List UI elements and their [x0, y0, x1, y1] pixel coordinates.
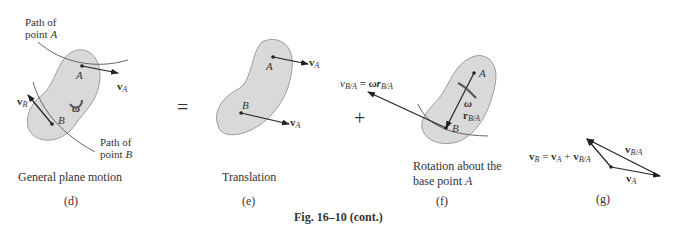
omega-label: ω — [72, 102, 80, 114]
point-b-label-f: B — [452, 122, 459, 134]
point-a-label-e: A — [266, 60, 273, 72]
r-ba-label: rB/A — [463, 109, 480, 125]
v-ba-label-g: vB/A — [625, 143, 643, 159]
plus-operator: + — [354, 107, 365, 130]
point-a-label-f: A — [479, 67, 486, 79]
vector-vba-g — [587, 139, 660, 176]
point-b-label: B — [58, 114, 65, 126]
panel-f-title: Rotation about the base point A — [413, 159, 502, 189]
figure-caption: Fig. 16–10 (cont.) — [294, 210, 383, 225]
panel-d-label: (d) — [64, 194, 78, 209]
rigid-body-e — [217, 39, 293, 134]
path-b-label: Path of point B — [100, 136, 132, 160]
point-a-dot-e — [271, 55, 275, 59]
point-b-dot-e — [239, 111, 243, 115]
velocity-a-label-e: vA — [309, 56, 319, 72]
panel-f-drawing — [368, 56, 496, 144]
point-b-dot-f — [444, 126, 448, 130]
omega-label-f: ω — [464, 97, 472, 109]
point-a-label: A — [76, 69, 83, 81]
path-a-label: Path of point A — [25, 16, 57, 40]
panel-d-title: General plane motion — [18, 170, 122, 185]
diagram-canvas — [0, 0, 683, 231]
panel-g-drawing — [587, 139, 660, 176]
panel-e-title: Translation — [222, 170, 276, 185]
point-a-dot — [80, 64, 84, 68]
panel-g-label: (g) — [596, 192, 610, 207]
velocity-b-label: vB — [17, 95, 27, 111]
point-b-label-e: B — [242, 99, 249, 111]
v-a-label-g: vA — [626, 172, 636, 188]
point-a-dot-f — [472, 71, 476, 75]
relative-velocity-equation: vB/A = ωrB/A — [340, 77, 393, 93]
panel-f-label: (f) — [436, 194, 448, 209]
panel-e-label: (e) — [242, 194, 255, 209]
velocity-sum-equation: vB = vA + vB/A — [529, 150, 591, 166]
equals-operator: = — [177, 96, 188, 119]
velocity-a-label: vA — [117, 80, 127, 96]
point-b-dot — [50, 122, 54, 126]
velocity-b-label-e: vA — [290, 116, 300, 132]
